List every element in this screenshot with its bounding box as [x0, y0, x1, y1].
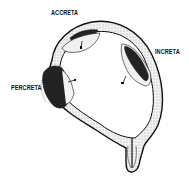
label-accreta: ACCRETA: [51, 10, 78, 17]
label-percreta: PERCRETA: [11, 85, 42, 92]
uterus-diagram: [0, 0, 189, 188]
label-increta: INCRETA: [155, 49, 180, 56]
